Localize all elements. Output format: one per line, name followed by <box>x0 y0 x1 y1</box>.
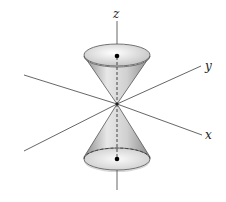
apex-point <box>116 103 119 106</box>
x-axis-label: x <box>205 128 212 142</box>
y-axis-label: y <box>204 59 212 73</box>
double-cone-diagram: z y x <box>0 0 226 202</box>
z-axis-label: z <box>112 7 120 21</box>
lower-center-point <box>115 157 120 162</box>
upper-center-point <box>115 54 120 59</box>
